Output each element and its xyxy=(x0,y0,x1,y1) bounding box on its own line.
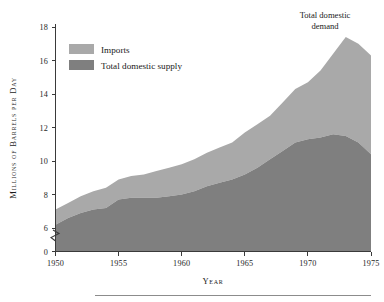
figure-container: 0681012141618 195019551960196519701975 Y… xyxy=(0,0,384,302)
x-axis-title: Year xyxy=(202,276,223,286)
y-tick-label: 8 xyxy=(44,191,48,200)
legend-swatch-imports xyxy=(69,44,94,54)
y-tick-label: 0 xyxy=(44,248,48,257)
x-tick-label: 1970 xyxy=(299,259,316,268)
legend-label-domestic-supply: Total domestic supply xyxy=(101,61,182,71)
y-tick-label: 12 xyxy=(39,124,48,133)
x-tick-label: 1975 xyxy=(362,259,379,268)
legend-label-imports: Imports xyxy=(101,45,130,55)
x-tick-label: 1965 xyxy=(236,259,253,268)
y-tick-label: 14 xyxy=(39,90,48,99)
x-tick-label: 1960 xyxy=(173,259,190,268)
oil-supply-demand-area-chart: 0681012141618 195019551960196519701975 Y… xyxy=(0,0,384,302)
annotation-line-1: Total domestic xyxy=(300,10,351,20)
y-axis-title: Millions of Barrels per Day xyxy=(8,77,18,199)
x-tick-label: 1950 xyxy=(47,259,64,268)
y-tick-label: 18 xyxy=(39,23,48,32)
y-tick-label: 6 xyxy=(44,224,48,233)
y-tick-label: 16 xyxy=(39,57,48,66)
annotation-line-2: demand xyxy=(311,21,339,31)
legend-swatch-domestic-supply xyxy=(69,60,94,70)
x-tick-label: 1955 xyxy=(110,259,127,268)
y-tick-label: 10 xyxy=(39,157,48,166)
